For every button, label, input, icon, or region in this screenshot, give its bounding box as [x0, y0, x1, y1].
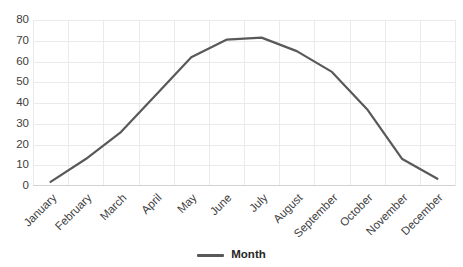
chart-legend: Month — [0, 245, 463, 265]
line-chart: 01020304050607080 JanuaryFebruaryMarchAp… — [0, 0, 463, 267]
gridline — [455, 20, 456, 186]
x-tick-label: March — [98, 192, 129, 223]
y-tick-label: 40 — [0, 97, 29, 109]
plot-area — [33, 20, 455, 186]
y-tick-label: 60 — [0, 56, 29, 68]
x-tick-label: August — [271, 192, 304, 225]
y-tick-label: 70 — [0, 35, 29, 47]
y-tick-label: 10 — [0, 160, 29, 172]
y-tick-label: 0 — [0, 180, 29, 192]
x-axis: JanuaryFebruaryMarchAprilMayJuneJulyAugu… — [33, 188, 455, 246]
x-tick-label: February — [53, 192, 94, 233]
y-tick-label: 20 — [0, 139, 29, 151]
x-tick-label: July — [247, 192, 270, 215]
legend-line-swatch — [197, 254, 224, 257]
y-axis: 01020304050607080 — [0, 0, 29, 206]
y-tick-label: 80 — [0, 14, 29, 26]
x-tick-label: May — [176, 192, 200, 216]
y-tick-label: 50 — [0, 77, 29, 89]
legend-label-month: Month — [231, 249, 265, 261]
series-month-line — [33, 20, 455, 186]
x-tick-label: April — [140, 192, 164, 216]
series-month-polyline — [51, 38, 438, 182]
x-tick-label: June — [209, 192, 235, 218]
y-tick-label: 30 — [0, 118, 29, 130]
